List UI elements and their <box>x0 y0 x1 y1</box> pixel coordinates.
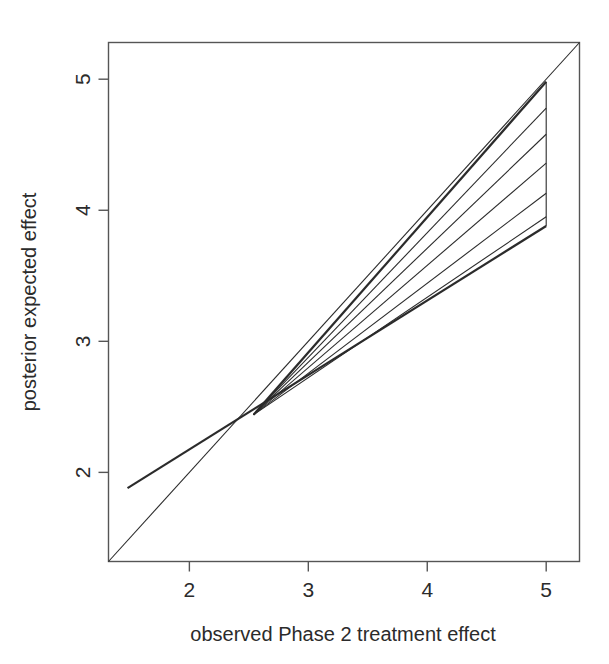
x-tick-label-5: 5 <box>540 578 552 601</box>
plot-background <box>0 0 609 664</box>
chart-figure: 2345 2345 observed Phase 2 treatment eff… <box>0 0 609 664</box>
y-axis-title: posterior expected effect <box>18 192 40 411</box>
y-tick-label-2: 2 <box>71 467 94 479</box>
scatter-line-plot: 2345 2345 observed Phase 2 treatment eff… <box>0 0 609 664</box>
x-tick-label-3: 3 <box>302 578 314 601</box>
x-tick-label-2: 2 <box>184 578 196 601</box>
y-tick-label-5: 5 <box>71 73 94 85</box>
x-tick-label-4: 4 <box>421 578 433 601</box>
y-tick-label-4: 4 <box>71 204 94 216</box>
x-axis-title: observed Phase 2 treatment effect <box>190 623 496 645</box>
y-tick-label-3: 3 <box>71 335 94 347</box>
